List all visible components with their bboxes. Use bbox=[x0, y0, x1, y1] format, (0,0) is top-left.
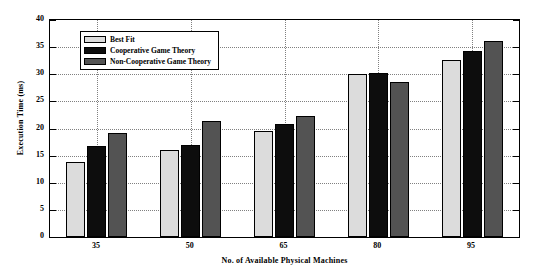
bar bbox=[160, 150, 179, 237]
legend: Best FitCooperative Game TheoryNon-Coope… bbox=[80, 31, 219, 70]
y-tick-mark bbox=[513, 74, 519, 75]
y-tick-mark bbox=[50, 20, 56, 21]
legend-label: Non-Cooperative Game Theory bbox=[110, 57, 211, 66]
y-tick-label: 0 bbox=[22, 232, 44, 240]
bar bbox=[484, 41, 503, 237]
legend-label: Cooperative Game Theory bbox=[110, 46, 195, 55]
y-tick-mark bbox=[50, 156, 56, 157]
legend-item: Best Fit bbox=[84, 34, 215, 45]
y-tick-mark bbox=[513, 101, 519, 102]
legend-item: Non-Cooperative Game Theory bbox=[84, 56, 215, 67]
x-tick-label: 95 bbox=[467, 241, 475, 250]
legend-swatch-icon bbox=[84, 36, 106, 43]
bar bbox=[390, 82, 409, 237]
bar bbox=[296, 116, 315, 237]
bar bbox=[87, 146, 106, 237]
y-tick-mark bbox=[513, 129, 519, 130]
legend-swatch-icon bbox=[84, 58, 106, 65]
y-tick-mark bbox=[513, 47, 519, 48]
bar bbox=[369, 73, 388, 237]
y-tick-label: 30 bbox=[22, 69, 44, 77]
bar bbox=[442, 60, 461, 237]
bar bbox=[463, 51, 482, 237]
y-tick-label: 20 bbox=[22, 124, 44, 132]
bar bbox=[202, 121, 221, 237]
legend-swatch-icon bbox=[84, 47, 106, 54]
x-tick-label: 50 bbox=[186, 241, 194, 250]
y-tick-mark bbox=[513, 210, 519, 211]
y-tick-mark bbox=[513, 20, 519, 21]
y-tick-label: 10 bbox=[22, 178, 44, 186]
y-tick-label: 15 bbox=[22, 151, 44, 159]
bar bbox=[348, 74, 367, 237]
y-tick-label: 35 bbox=[22, 42, 44, 50]
y-tick-mark bbox=[50, 183, 56, 184]
y-tick-mark bbox=[50, 101, 56, 102]
x-tick-label: 80 bbox=[373, 241, 381, 250]
y-tick-mark bbox=[50, 47, 56, 48]
x-axis-label: No. of Available Physical Machines bbox=[49, 256, 520, 265]
bar bbox=[254, 131, 273, 237]
bar bbox=[66, 162, 85, 237]
y-axis-tick-labels: 0510152025303540 bbox=[22, 0, 44, 279]
x-axis-tick-labels: 3550658095 bbox=[49, 241, 520, 253]
y-tick-label: 25 bbox=[22, 96, 44, 104]
legend-item: Cooperative Game Theory bbox=[84, 45, 215, 56]
x-tick-label: 65 bbox=[280, 241, 288, 250]
bar bbox=[108, 133, 127, 237]
bar-chart-figure: Execution Time (ms) 0510152025303540 355… bbox=[0, 0, 543, 279]
y-tick-mark bbox=[50, 129, 56, 130]
y-tick-mark bbox=[513, 156, 519, 157]
y-tick-mark bbox=[513, 183, 519, 184]
y-tick-mark bbox=[50, 210, 56, 211]
y-tick-label: 5 bbox=[22, 205, 44, 213]
legend-label: Best Fit bbox=[110, 35, 135, 44]
bar bbox=[275, 124, 294, 237]
bar bbox=[181, 145, 200, 237]
x-tick-label: 35 bbox=[92, 241, 100, 250]
y-tick-mark bbox=[50, 74, 56, 75]
y-tick-label: 40 bbox=[22, 15, 44, 23]
